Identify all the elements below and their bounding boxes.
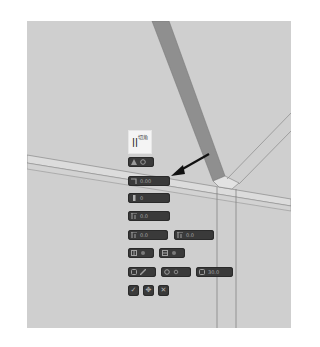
height-icon — [131, 195, 137, 201]
height-chip[interactable]: 0 — [128, 193, 170, 203]
chamfer-icon — [131, 213, 137, 219]
rotate-icon — [199, 269, 205, 275]
chamfer-value[interactable]: 0.0 — [140, 213, 148, 219]
grid-b-chip[interactable] — [159, 248, 185, 258]
move-button[interactable]: ✥ — [143, 285, 154, 296]
name-label-box: || 切角 — [128, 130, 152, 154]
offset-icon — [131, 178, 137, 184]
check-icon: ✓ — [131, 287, 137, 294]
offset-value[interactable]: 0.00 — [140, 178, 151, 184]
rotate-chip[interactable]: 30.0 — [196, 267, 233, 277]
chamfer-end-chip[interactable]: 0.0 — [174, 230, 214, 240]
diagonal-beam — [152, 21, 225, 181]
horizontal-beam-bottom — [27, 163, 291, 211]
3d-viewport[interactable]: || 切角 0.00 0 0.0 0.0 0.0 — [27, 21, 291, 328]
cancel-button[interactable]: ✕ — [158, 285, 169, 296]
angle-icon — [131, 159, 137, 165]
scene-geometry — [27, 21, 291, 328]
grid-a-chip[interactable] — [128, 248, 154, 258]
chamfer-end-value[interactable]: 0.0 — [186, 232, 194, 238]
rotate-value[interactable]: 30.0 — [208, 269, 219, 275]
chamfer-start-icon — [131, 232, 137, 238]
offset-chip[interactable]: 0.00 — [128, 176, 170, 186]
settings-icon — [173, 269, 179, 275]
chamfer-start-chip[interactable]: 0.0 — [128, 230, 168, 240]
grid-b-icon — [162, 250, 168, 256]
layer-chip[interactable] — [128, 267, 156, 277]
confirm-button[interactable]: ✓ — [128, 285, 139, 296]
close-icon: ✕ — [161, 287, 167, 294]
layer-icon — [131, 269, 137, 275]
angle-chip[interactable] — [128, 157, 154, 167]
label-bars: || — [132, 140, 138, 146]
height-value[interactable]: 0 — [140, 195, 143, 201]
chamfer-chip[interactable]: 0.0 — [128, 211, 170, 221]
chamfer-start-value[interactable]: 0.0 — [140, 232, 148, 238]
toggle-icon — [171, 250, 177, 256]
settings-icon — [140, 159, 146, 165]
snap-icon — [164, 269, 170, 275]
grid-a-icon — [131, 250, 137, 256]
chamfer-end-icon — [177, 232, 183, 238]
brush-icon — [140, 269, 146, 275]
toggle-icon — [140, 250, 146, 256]
label-text: 切角 — [138, 134, 148, 140]
snap-chip[interactable] — [161, 267, 191, 277]
move-icon: ✥ — [146, 287, 152, 294]
